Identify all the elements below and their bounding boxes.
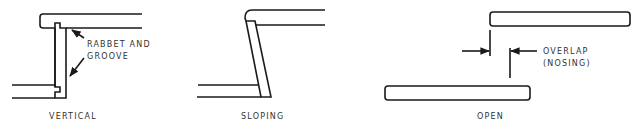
sloping-caption: SLOPING [241,112,284,121]
stair-riser-diagram: RABBET AND GROOVE VERTICAL SLOPING OVERL… [0,0,640,132]
vertical-caption: VERTICAL [49,112,97,121]
rabbet-leader-arrow [72,30,84,38]
riser-board [55,23,66,98]
open-riser-panel: OVERLAP (NOSING) OPEN [385,12,630,121]
groove-leader-arrow [70,58,84,76]
open-caption: OPEN [477,112,504,121]
sloping-riser-panel: SLOPING [197,10,325,121]
rabbet-label: RABBET AND [87,40,151,49]
upper-tread [245,10,325,25]
groove-label: GROOVE [87,52,129,61]
vertical-riser-panel: RABBET AND GROOVE VERTICAL [12,14,151,121]
nosing-label: (NOSING) [543,59,591,68]
upper-tread [490,12,630,26]
overlap-label: OVERLAP [543,47,589,56]
lower-tread [385,86,530,100]
